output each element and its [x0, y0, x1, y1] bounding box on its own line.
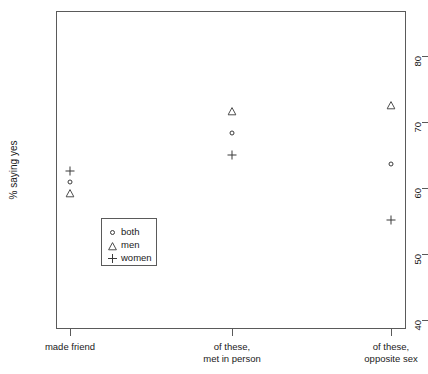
- y-tick-label: 80: [413, 56, 423, 67]
- y-tick-mark: [422, 254, 428, 255]
- x-tick-label: of these, opposite sex: [364, 341, 417, 364]
- legend-item-label: men: [121, 240, 139, 250]
- plus-marker: [107, 253, 118, 264]
- circle-marker: [389, 161, 394, 166]
- legend-item: both: [107, 226, 140, 238]
- triangle-marker: [387, 96, 396, 114]
- x-tick-label: made friend: [45, 341, 95, 353]
- y-tick-mark: [422, 320, 428, 321]
- x-tick-mark: [70, 329, 71, 336]
- y-axis-title: % saying yes: [8, 141, 19, 200]
- y-tick-mark: [422, 56, 428, 57]
- y-tick-label: 50: [413, 254, 423, 265]
- legend-item-label: women: [121, 253, 152, 263]
- circle-marker: [230, 130, 235, 135]
- plot-area-frame: [56, 11, 406, 329]
- triangle-marker: [66, 184, 75, 202]
- x-tick-mark: [391, 329, 392, 336]
- x-tick-label: of these, met in person: [203, 341, 261, 364]
- scatter-chart: % saying yes 8070605040 made friendof th…: [0, 0, 428, 374]
- legend-box: bothmenwomen: [101, 218, 157, 266]
- legend-item: men: [107, 239, 139, 251]
- x-tick-mark: [232, 329, 233, 336]
- plus-marker: [66, 166, 75, 175]
- plus-marker: [387, 215, 396, 224]
- triangle-marker: [107, 240, 118, 251]
- legend-item-label: both: [121, 227, 140, 237]
- y-tick-label: 60: [413, 188, 423, 199]
- y-axis: % saying yes: [0, 0, 56, 374]
- y-tick-label: 40: [413, 320, 423, 331]
- y-tick-mark: [422, 122, 428, 123]
- plus-marker: [228, 151, 237, 160]
- y-tick-mark: [422, 188, 428, 189]
- y-tick-label: 70: [413, 122, 423, 133]
- circle-marker: [107, 227, 118, 238]
- legend-item: women: [107, 252, 152, 264]
- triangle-marker: [228, 102, 237, 120]
